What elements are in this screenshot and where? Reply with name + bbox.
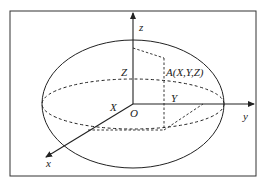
coord-Y-label: Y	[171, 92, 179, 104]
x-axis-label: x	[45, 157, 51, 169]
point-A-label: A(X,Y,Z)	[165, 66, 204, 79]
z-axis-label: z	[138, 21, 144, 33]
y-axis-label: y	[242, 110, 248, 122]
origin-label: O	[130, 107, 138, 119]
ellipsoid-diagram: z y x O X Y Z A(X,Y,Z)	[0, 0, 262, 186]
x-axis	[46, 104, 133, 157]
coord-X-label: X	[109, 101, 118, 113]
point-projection-lines	[88, 48, 203, 130]
coord-Z-label: Z	[121, 66, 128, 78]
